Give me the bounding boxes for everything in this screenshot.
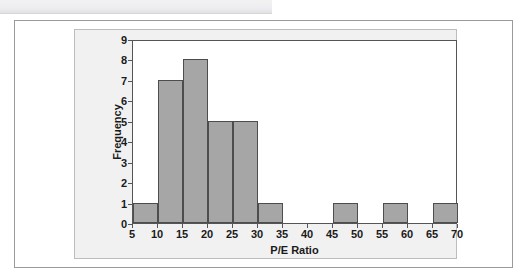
bars-container (133, 41, 456, 223)
page-top-band (0, 0, 272, 13)
y-axis-tick-label: 4 (111, 137, 127, 148)
histogram-bar (233, 121, 258, 223)
y-axis-title-container: Frequency (93, 40, 105, 224)
y-axis-tick-label: 1 (111, 198, 127, 209)
y-axis-tick-label: 5 (111, 116, 127, 127)
histogram-bar (433, 203, 458, 223)
y-axis-tick-label: 2 (111, 178, 127, 189)
y-axis-tick-labels: 0123456789 (105, 40, 127, 224)
y-axis-tick-label: 3 (111, 157, 127, 168)
histogram-bar (383, 203, 408, 223)
chart-panel: Frequency 0123456789 5101520253035404550… (74, 29, 457, 259)
histogram-bar (133, 203, 158, 223)
x-axis-tick-label: 70 (442, 229, 472, 240)
page-top-rule (0, 13, 272, 14)
x-axis-title: P/E Ratio (132, 244, 457, 256)
y-axis-tick-label: 8 (111, 55, 127, 66)
histogram-bar (258, 203, 283, 223)
y-axis-tick-label: 6 (111, 96, 127, 107)
histogram-bar (208, 121, 233, 223)
x-axis-tick-labels: 510152025303540455055606570 (132, 229, 457, 243)
y-axis-tick-label: 9 (111, 35, 127, 46)
y-axis-tick-label: 7 (111, 75, 127, 86)
histogram-bar (333, 203, 358, 223)
plot-area (132, 40, 457, 224)
histogram-bar (183, 59, 208, 223)
figure-container: Frequency 0123456789 5101520253035404550… (14, 20, 513, 268)
histogram-bar (158, 80, 183, 223)
y-axis-tick-label: 0 (111, 219, 127, 230)
